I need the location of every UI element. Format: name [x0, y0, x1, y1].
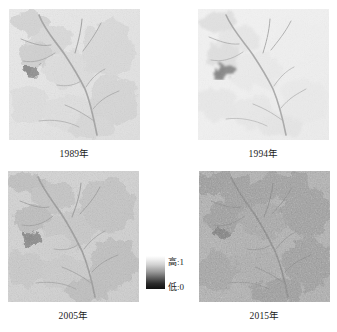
raster-image-2015	[199, 171, 330, 302]
legend: 高:1 低:0	[146, 255, 198, 301]
map-panel-2005	[8, 171, 139, 302]
raster-image-2005	[8, 171, 139, 302]
map-panel-1994	[198, 9, 329, 140]
map-panel-2015	[199, 171, 330, 302]
figure-remote-sensing-grid: 1989年	[0, 0, 337, 332]
panel-caption-2005: 2005年	[8, 308, 139, 322]
legend-label-high: 高:1	[168, 255, 184, 268]
panel-caption-1989: 1989年	[9, 146, 140, 160]
raster-image-1994	[198, 9, 329, 140]
raster-image-1989	[9, 9, 140, 140]
map-panel-1989	[9, 9, 140, 140]
panel-caption-1994: 1994年	[198, 146, 329, 160]
legend-label-low: 低:0	[168, 280, 184, 293]
panel-caption-2015: 2015年	[199, 308, 330, 322]
legend-gradient-bar	[146, 256, 165, 289]
